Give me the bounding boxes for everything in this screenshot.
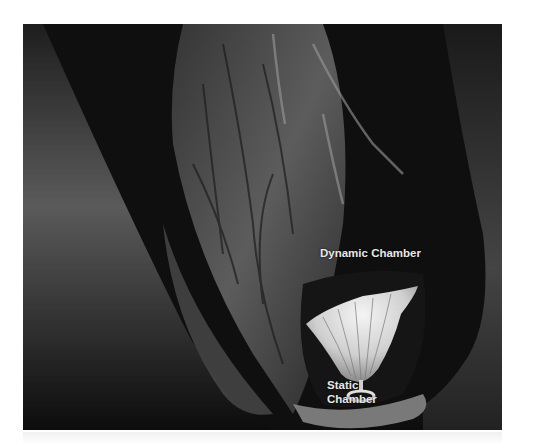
static-chamber-label: Static Chamber	[327, 378, 387, 406]
dynamic-chamber-label: Dynamic Chamber	[320, 246, 421, 260]
static-chamber-label-line1: Static	[327, 378, 387, 392]
static-chamber-label-line2: Chamber	[327, 392, 387, 406]
heart-anatomy-graphic	[23, 24, 502, 430]
heart-illustration: Dynamic Chamber Static Chamber	[23, 24, 502, 430]
cropped-caption-remnant	[23, 432, 502, 445]
